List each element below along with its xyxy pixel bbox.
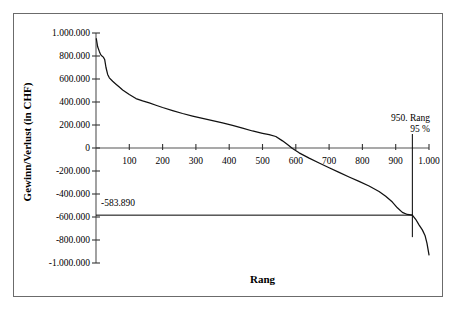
percentile-percent-label: 95 %: [372, 124, 430, 135]
y-axis-tick-label: -400.000: [20, 189, 90, 199]
y-axis-tick-label: 200.000: [20, 120, 90, 130]
y-axis-tick-label: 1.000.000: [20, 28, 90, 38]
y-axis-tick-label: -600.000: [20, 212, 90, 222]
y-axis-tick-label: -800.000: [20, 235, 90, 245]
y-axis-tick-label: -200.000: [20, 166, 90, 176]
y-axis-tick-label: 800.000: [20, 51, 90, 61]
x-axis-ticks: [129, 144, 429, 150]
y-axis-tick-label: -1.000.000: [20, 258, 90, 268]
y-axis-tick-label: 400.000: [20, 97, 90, 107]
chart-figure: Gewinn/Verlust (in CHF) Rang 1.000.00080…: [0, 0, 457, 312]
y-axis-tick-label: 0: [20, 143, 90, 153]
x-axis-title: Rang: [96, 273, 429, 285]
y-axis-tick-label: 600.000: [20, 74, 90, 84]
x-axis-tick-label: 1.000: [409, 156, 449, 166]
value-at-percentile-label: -583.890: [101, 198, 135, 209]
percentile-rank-label: 950. Rang: [372, 113, 430, 124]
